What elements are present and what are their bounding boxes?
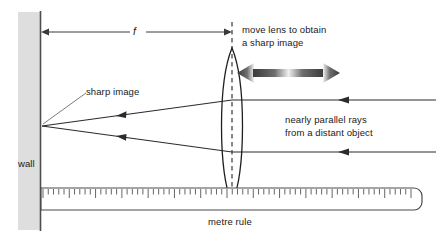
sharp-image-label: sharp image [86,86,139,99]
wall-label: wall [18,158,35,171]
converging-ray-upper-arrowhead [116,111,127,118]
converging-ray-lower [42,126,232,152]
ruler-body [41,188,422,210]
wall-body [18,12,40,230]
parallel-ray-upper-arrowhead [338,96,349,103]
sharp-image-leader-line [43,93,86,124]
move-lens-label-line1: move lens to obtain [242,24,326,37]
move-arrow-shaft-left [253,69,289,77]
converging-rays [42,100,232,152]
focal-length-dimension [41,29,232,36]
metre-rule-label: metre rule [208,216,252,229]
move-arrow-head-right [323,63,340,83]
move-arrow-shaft-right [288,69,324,77]
focal-dim-arrowhead-right [224,29,232,36]
parallel-ray-lower-arrowhead [338,148,349,155]
parallel-rays-label-line1: nearly parallel rays [285,114,367,127]
parallel-rays-label-line2: from a distant object [285,127,373,140]
focal-length-label: f [133,25,136,38]
focal-dim-arrowhead-left [41,29,49,36]
wall-shape [18,11,41,231]
converging-ray-lower-arrowhead [116,134,127,141]
move-lens-label-line2: a sharp image [242,37,304,50]
diagram-canvas: wall f sharp image move lens to obtain a… [0,0,440,246]
metre-rule [41,188,422,210]
move-lens-double-arrow [237,63,340,83]
ray-diagram-svg [0,0,440,246]
